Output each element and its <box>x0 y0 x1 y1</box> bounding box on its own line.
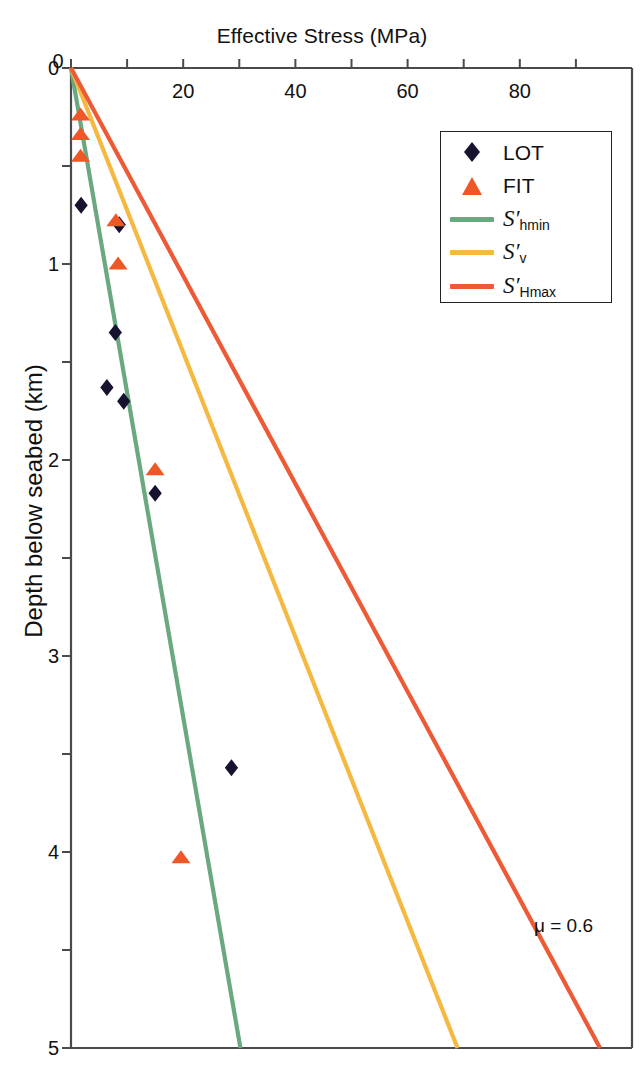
legend-item-label: LOT <box>503 142 544 163</box>
y-tick-label: 2 <box>25 449 59 472</box>
legend-item[interactable]: FIT <box>441 169 613 203</box>
legend: LOTFITS′hminS′vS′Hmax <box>440 131 612 303</box>
legend-line-swatch <box>441 217 503 222</box>
legend-item[interactable]: S′hmin <box>441 202 613 236</box>
y-tick-label: 1 <box>25 253 59 276</box>
x-tick-label: 20 <box>172 80 194 103</box>
x-tick-label: 60 <box>396 80 418 103</box>
legend-swatch <box>450 250 494 255</box>
legend-item-label: S′v <box>503 240 527 265</box>
legend-item[interactable]: LOT <box>441 135 613 169</box>
legend-item[interactable]: S′Hmax <box>441 269 613 303</box>
legend-swatch <box>450 284 494 289</box>
y-tick-label: 4 <box>25 841 59 864</box>
legend-item[interactable]: S′v <box>441 236 613 270</box>
legend-item-label: S′hmin <box>503 207 550 232</box>
legend-swatch <box>450 217 494 222</box>
legend-item-label: S′Hmax <box>503 274 556 299</box>
y-tick-label: 5 <box>25 1037 59 1060</box>
legend-triangle-icon <box>441 174 503 198</box>
friction-annotation: μ = 0.6 <box>534 915 593 937</box>
legend-item-label: FIT <box>503 175 535 196</box>
legend-line-swatch <box>441 284 503 289</box>
chart-figure: Effective Stress (MPa) Depth below seabe… <box>0 0 644 1068</box>
x-tick-label: 80 <box>509 80 531 103</box>
y-tick-label: 0 <box>25 57 59 80</box>
legend-line-swatch <box>441 250 503 255</box>
x-tick-label: 40 <box>284 80 306 103</box>
y-tick-label: 3 <box>25 645 59 668</box>
legend-diamond-icon <box>441 140 503 164</box>
